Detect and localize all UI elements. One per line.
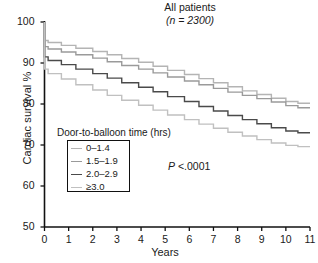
legend-swatch-icon (71, 187, 82, 188)
x-axis-tick-label: 8 (231, 233, 245, 245)
x-axis-tick-label: 11 (303, 233, 317, 245)
legend-item-label: ≥3.0 (86, 182, 104, 192)
y-axis-tick-label: 70 (9, 138, 35, 150)
legend-item: 1.5–1.9 (71, 155, 129, 167)
x-axis-tick-label: 1 (62, 233, 76, 245)
survival-curve-1 (45, 22, 311, 103)
legend-item-label: 2.0–2.9 (86, 169, 118, 179)
legend-item-label: 1.5–1.9 (86, 156, 118, 166)
cardiac-survival-chart: All patients (n = 2300) Cardiac survival… (0, 0, 318, 263)
chart-title: All patients (120, 1, 260, 14)
legend-item: 2.0–2.9 (71, 168, 129, 180)
y-axis-tick-label: 90 (9, 56, 35, 68)
x-axis-tick-label: 9 (255, 233, 269, 245)
legend-swatch-icon (71, 161, 82, 162)
x-axis-tick-label: 6 (182, 233, 196, 245)
p-value-number: <.0001 (178, 160, 210, 172)
x-axis-tick-label: 4 (134, 233, 148, 245)
p-value-symbol: P (168, 160, 175, 172)
legend-item-label: 0–1.4 (86, 143, 110, 153)
x-axis-tick-label: 0 (38, 233, 52, 245)
chart-title-block: All patients (n = 2300) (120, 1, 260, 27)
chart-subtitle-text: (n = 2300) (166, 14, 214, 26)
legend-item: 0–1.4 (71, 142, 129, 154)
x-axis-tick-label: 7 (206, 233, 220, 245)
y-axis-tick-label: 50 (9, 220, 35, 232)
y-axis-tick-label: 60 (9, 179, 35, 191)
legend-swatch-icon (71, 148, 82, 149)
x-axis-tick-label: 2 (86, 233, 100, 245)
x-axis-tick-label: 3 (110, 233, 124, 245)
legend-item: ≥3.0 (71, 181, 129, 193)
legend: 0–1.4 1.5–1.9 2.0–2.9 ≥3.0 (67, 140, 130, 192)
x-axis-tick-label: 5 (158, 233, 172, 245)
legend-swatch-icon (71, 174, 82, 175)
y-axis-tick-label: 80 (9, 97, 35, 109)
y-axis-tick-label: 100 (9, 15, 35, 27)
x-axis-label: Years (120, 246, 210, 258)
p-value-annotation: P <.0001 (168, 160, 210, 172)
x-axis-tick-label: 10 (279, 233, 293, 245)
chart-subtitle: (n = 2300) (120, 14, 260, 27)
legend-title: Door-to-balloon time (hrs) (57, 127, 171, 138)
